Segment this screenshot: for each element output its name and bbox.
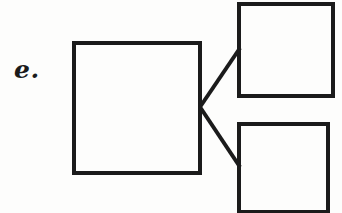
bottom-right-square <box>239 124 328 212</box>
figure-label: e. <box>14 53 60 87</box>
diagram-canvas: e. <box>0 0 342 213</box>
top-right-square <box>239 4 333 96</box>
diagram-figure <box>0 0 342 213</box>
connector-to-bottom-right <box>200 107 240 167</box>
large-square <box>74 43 200 173</box>
connector-to-top-right <box>200 48 240 107</box>
